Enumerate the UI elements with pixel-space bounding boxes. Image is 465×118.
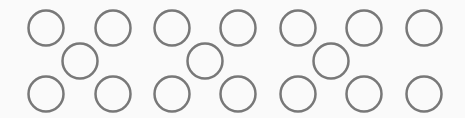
- circle-bottom-left: [155, 77, 190, 112]
- circle-pattern-diagram: [0, 0, 465, 118]
- circle-top: [407, 11, 442, 46]
- circle-top-left: [155, 11, 190, 46]
- circle-center: [314, 44, 349, 79]
- group-2: [155, 11, 256, 112]
- circle-top-right: [347, 11, 382, 46]
- group-4: [407, 11, 442, 112]
- circle-top-left: [29, 11, 64, 46]
- group-3: [281, 11, 382, 112]
- circle-bottom-left: [29, 77, 64, 112]
- group-1: [29, 11, 131, 112]
- circle-center: [188, 44, 223, 79]
- circle-bottom: [407, 77, 442, 112]
- circle-top-right: [221, 11, 256, 46]
- circle-top-left: [281, 11, 316, 46]
- circle-top-right: [96, 11, 131, 46]
- circle-groups: [29, 11, 442, 112]
- circle-bottom-right: [221, 77, 256, 112]
- circle-bottom-left: [281, 77, 316, 112]
- circle-bottom-right: [347, 77, 382, 112]
- circle-center: [63, 44, 98, 79]
- circle-bottom-right: [96, 77, 131, 112]
